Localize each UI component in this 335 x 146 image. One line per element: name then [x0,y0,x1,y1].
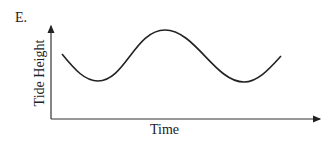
tide-curve [62,30,281,82]
x-axis-label: Time [150,122,179,138]
y-axis-label: Tide Height [32,40,48,107]
